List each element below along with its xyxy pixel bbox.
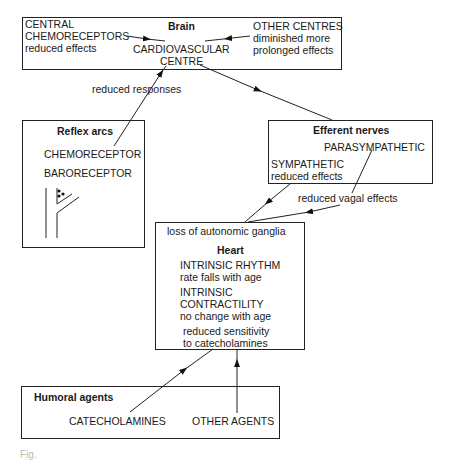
contract-line1: INTRINSIC: [180, 286, 233, 298]
ganglia-label: loss of autonomic ganglia: [167, 225, 286, 237]
humoral-title: Humoral agents: [34, 391, 113, 403]
sens-line2: to catecholamines: [183, 337, 268, 349]
reflex-arcs-title: Reflex arcs: [57, 125, 113, 137]
arrow-vagal-to-heart: [248, 205, 340, 222]
other-agents-label: OTHER AGENTS: [192, 415, 274, 427]
other-centres-line1: OTHER CENTRES: [253, 20, 343, 32]
catecholamines-label: CATECHOLAMINES: [69, 415, 166, 427]
central-chemo-line1: CENTRAL: [25, 18, 74, 30]
sens-line1: reduced sensitivity: [183, 325, 269, 337]
reduced-vagal-label: reduced vagal effects: [298, 192, 398, 204]
baroreceptor-label: BARORECEPTOR: [44, 167, 132, 179]
cardio-centre-line1: CARDIOVASCULAR: [133, 43, 230, 55]
central-chemo-line2: CHEMORECEPTORS: [25, 30, 129, 42]
cardio-centre-line2: CENTRE: [160, 55, 203, 67]
rhythm-line2: rate falls with age: [180, 271, 262, 283]
parasympathetic-label: PARASYMPATHETIC: [324, 141, 425, 153]
other-centres-line2: diminished more: [253, 32, 330, 44]
brain-title: Brain: [168, 20, 195, 32]
efferent-nerves-title: Efferent nerves: [313, 124, 389, 136]
reduced-responses-label: reduced responses: [92, 83, 181, 95]
arrow-sympathetic-to-heart: [245, 184, 290, 222]
central-chemo-line3: reduced effects: [25, 42, 97, 54]
contract-line2: CONTRACTILITY: [180, 298, 263, 310]
other-centres-line3: prolonged effects: [253, 44, 333, 56]
sympathetic-label: SYMPATHETIC: [271, 158, 344, 170]
heart-title: Heart: [217, 244, 244, 256]
contract-line3: no change with age: [180, 310, 271, 322]
reflex-arcs-box: [22, 120, 145, 248]
rhythm-line1: INTRINSIC RHYTHM: [180, 259, 280, 271]
figure-caption: Fig.: [20, 449, 37, 460]
chemoreceptor-label: CHEMORECEPTOR: [44, 148, 141, 160]
arrow-brain-to-efferent: [200, 65, 332, 120]
sympathetic-effect: reduced effects: [271, 170, 343, 182]
